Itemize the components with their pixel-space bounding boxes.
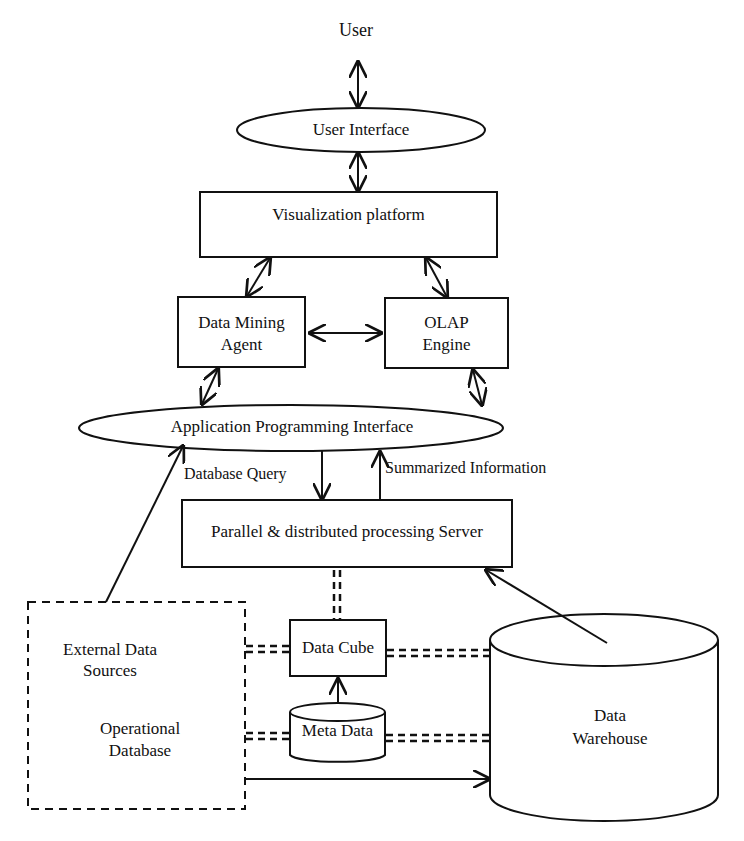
data-mining-label-1: Data Mining bbox=[178, 313, 305, 333]
server-label: Parallel & distributed processing Server bbox=[182, 522, 512, 542]
warehouse-label-2: Warehouse bbox=[560, 729, 660, 749]
external-sources-box bbox=[28, 602, 245, 809]
arrow-vis-dm bbox=[247, 258, 270, 296]
api-label: Application Programming Interface bbox=[80, 417, 504, 437]
arrow-external-api bbox=[106, 446, 183, 602]
database-query-label: Database Query bbox=[184, 464, 287, 484]
arrow-warehouse-server bbox=[486, 570, 607, 643]
external-label-1: External Data bbox=[40, 640, 180, 660]
arrow-vis-olap bbox=[426, 258, 447, 297]
summarized-info-label: Summarized Information bbox=[385, 458, 546, 478]
olap-label-2: Engine bbox=[385, 335, 508, 355]
arrow-olap-api bbox=[473, 370, 482, 405]
data-cube-label: Data Cube bbox=[290, 638, 386, 658]
warehouse-label-1: Data bbox=[560, 706, 660, 726]
user-label: User bbox=[326, 20, 386, 40]
operational-label-1: Operational bbox=[70, 719, 210, 739]
visualization-label: Visualization platform bbox=[200, 205, 497, 225]
olap-box bbox=[385, 298, 508, 368]
data-mining-label-2: Agent bbox=[178, 335, 305, 355]
external-label-2: Sources bbox=[40, 661, 180, 681]
meta-data-label: Meta Data bbox=[290, 721, 385, 741]
arrow-dm-api bbox=[202, 369, 218, 404]
operational-label-2: Database bbox=[70, 741, 210, 761]
user-interface-label: User Interface bbox=[237, 120, 485, 140]
olap-label-1: OLAP bbox=[385, 313, 508, 333]
